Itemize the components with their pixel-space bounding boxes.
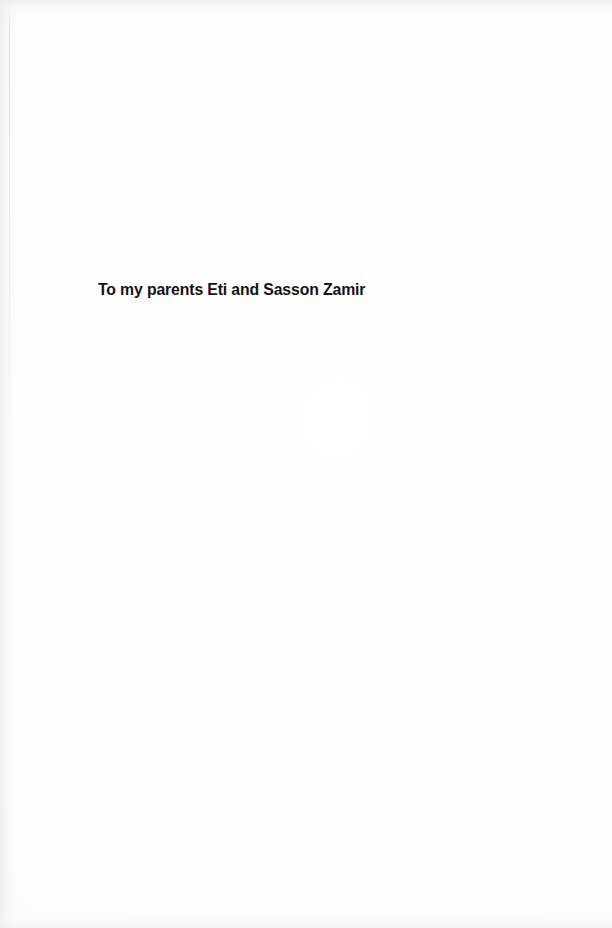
dedication-block: To my parents Eti and Sasson Zamir	[98, 280, 518, 300]
dedication-page: To my parents Eti and Sasson Zamir	[0, 0, 612, 928]
top-edge-smudge-artifact	[0, 0, 612, 14]
spine-shadow-artifact	[0, 0, 26, 928]
bottom-edge-smudge-artifact	[0, 906, 612, 928]
dedication-line: To my parents Eti and Sasson Zamir	[98, 280, 489, 300]
spine-crease-artifact	[9, 0, 10, 560]
paper-tone-overlay	[0, 0, 612, 928]
